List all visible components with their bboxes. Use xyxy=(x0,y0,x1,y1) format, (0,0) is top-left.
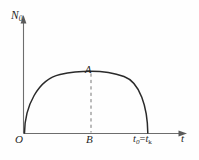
origin-label: O xyxy=(15,134,23,145)
y-axis-label: N0 xyxy=(11,10,23,23)
peak-label-a: A xyxy=(85,65,91,76)
endpoint-tk-subscript: k xyxy=(148,138,152,146)
endpoint-label-t0-tk: t0=tk xyxy=(133,134,152,146)
diagram-canvas xyxy=(0,0,199,160)
y-axis-label-main: N xyxy=(11,9,19,21)
peak-label-text: A xyxy=(85,64,91,75)
midpoint-label-b: B xyxy=(86,134,93,145)
population-curve xyxy=(25,71,148,133)
y-axis-label-subscript: 0 xyxy=(19,14,23,23)
midpoint-label-text: B xyxy=(86,133,93,145)
figure-container: N0 O B A t0=tk t xyxy=(0,0,199,160)
x-axis-label: t xyxy=(181,133,184,144)
